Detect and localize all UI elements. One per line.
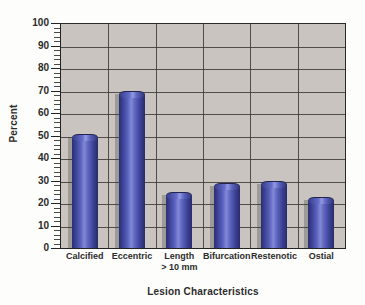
y-tick-mark — [51, 113, 60, 114]
x-axis-title: Lesion Characteristics — [61, 286, 345, 297]
y-tick-label: 10 — [23, 221, 49, 231]
bar-top-cap — [166, 192, 192, 199]
y-tick-mark — [51, 203, 60, 204]
bar-top-cap — [72, 134, 98, 141]
y-axis-title: Percent — [8, 78, 19, 170]
x-category-label: Ostial — [276, 251, 365, 262]
y-tick-label: 70 — [23, 86, 49, 96]
category-divider-line — [203, 24, 204, 249]
category-divider-line — [298, 24, 299, 249]
bar-chart-figure: Percent 1009080706050403020100 Calcified… — [0, 0, 365, 305]
y-tick-mark — [51, 136, 60, 137]
y-tick-label: 40 — [23, 153, 49, 163]
y-tick-mark — [51, 91, 60, 92]
bar-top-cap — [119, 91, 145, 98]
y-tick-mark — [51, 68, 60, 69]
bar-eccentric — [119, 94, 145, 249]
y-tick-label: 90 — [23, 41, 49, 51]
bar-restenotic — [261, 184, 287, 249]
y-tick-mark — [51, 226, 60, 227]
y-tick-mark — [51, 23, 60, 24]
y-tick-label: 80 — [23, 63, 49, 73]
category-divider-line — [250, 24, 251, 249]
y-tick-mark — [51, 181, 60, 182]
y-tick-label: 100 — [23, 18, 49, 28]
bar-top-cap — [261, 181, 287, 188]
plot-area — [61, 23, 346, 249]
bar-ostial — [308, 200, 334, 250]
y-tick-label: 60 — [23, 108, 49, 118]
category-divider-line — [156, 24, 157, 249]
bar-length-10-mm — [166, 195, 192, 249]
y-tick-label: 30 — [23, 176, 49, 186]
bar-top-cap — [308, 197, 334, 204]
category-divider-line — [108, 24, 109, 249]
y-tick-label: 50 — [23, 131, 49, 141]
y-tick-label: 20 — [23, 198, 49, 208]
x-category-label-line: Ostial — [309, 251, 334, 261]
y-tick-mark — [51, 46, 60, 47]
bar-calcified — [72, 137, 98, 250]
x-category-label-line: > 10 mm — [134, 262, 224, 273]
x-axis-line — [51, 248, 346, 249]
x-axis-category-labels: CalcifiedEccentricLength> 10 mmBifurcati… — [61, 251, 345, 285]
bar-bifurcation — [214, 186, 240, 249]
bar-top-cap — [214, 183, 240, 190]
y-tick-mark — [51, 158, 60, 159]
